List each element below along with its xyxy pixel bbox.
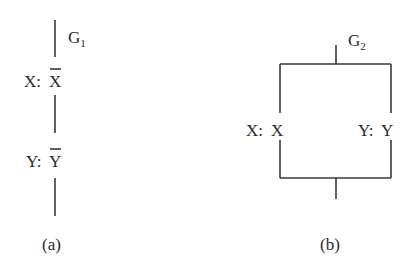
switching-networks-figure: G1 X: X Y: Y (a) G2 X: X Y: Y (b) xyxy=(0,0,420,272)
diagram-b-parallel-network: G2 X: X Y: Y (b) xyxy=(246,31,393,254)
caption-b: (b) xyxy=(320,235,340,254)
switch-y-value-b: Y xyxy=(381,121,393,140)
caption-a: (a) xyxy=(42,235,61,254)
switch-y-var-b: Y: xyxy=(358,121,373,140)
gate-label-g2: G2 xyxy=(348,31,366,52)
switch-x-value: X xyxy=(49,72,61,91)
switch-y-value: Y xyxy=(49,152,61,171)
switch-x-value-b: X xyxy=(271,121,283,140)
switch-x-var: X: xyxy=(24,72,41,91)
gate-label-g1: G1 xyxy=(68,28,86,49)
diagram-a-series-network: G1 X: X Y: Y (a) xyxy=(24,20,86,254)
switch-x-var-b: X: xyxy=(246,121,263,140)
switch-y-var: Y: xyxy=(26,152,41,171)
